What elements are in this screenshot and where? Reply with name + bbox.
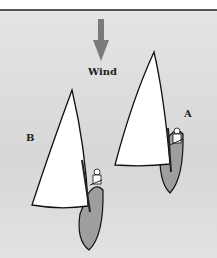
wind-arrow-icon: [93, 19, 109, 61]
boat-a: [115, 52, 183, 193]
boat-b: [32, 90, 103, 250]
boat-b-label: B: [26, 132, 34, 143]
sailing-diagram: [0, 0, 217, 258]
boat-a-label: A: [184, 108, 192, 119]
wind-label: Wind: [88, 66, 117, 77]
